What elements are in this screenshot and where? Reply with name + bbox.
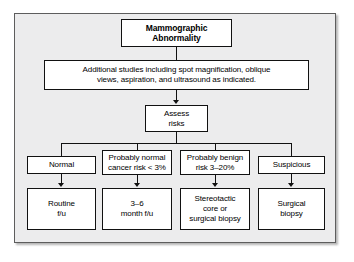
node-routine-fu-line1: Routine	[48, 199, 75, 208]
node-suspicious-line1: Suspicious	[273, 160, 311, 169]
node-suspicious-text: Suspicious	[271, 160, 313, 170]
node-additional-studies: Additional studies including spot magnif…	[44, 60, 309, 90]
node-probably-benign-line1: Probably benign	[187, 153, 243, 162]
node-probably-benign-line2: risk 3–20%	[196, 163, 235, 172]
node-additional-studies-line2: views, aspiration, and ultrasound as ind…	[97, 75, 256, 84]
node-surgical-biopsy: Surgical biopsy	[258, 188, 325, 230]
node-three-six-month-fu-line2: month f/u	[121, 209, 153, 218]
node-mammographic-abnormality: Mammographic Abnormality	[121, 19, 232, 47]
node-routine-fu-text: Routine f/u	[46, 199, 77, 219]
connector-assess-risks-stem	[176, 132, 177, 143]
node-surgical-biopsy-line1: Surgical	[277, 199, 305, 208]
node-probably-normal-text: Probably normal cancer risk < 3%	[106, 153, 168, 173]
node-three-six-month-fu-text: 3–6 month f/u	[119, 199, 155, 219]
node-mammographic-abnormality-text: Mammographic Abnormality	[144, 23, 210, 44]
node-stereotactic-core-or-surgical-biopsy: Stereotactic core or surgical biopsy	[180, 188, 250, 230]
connector-bus-to-suspicious	[291, 143, 292, 157]
node-additional-studies-text: Additional studies including spot magnif…	[81, 65, 273, 85]
arrowhead-to-stereotactic-core	[212, 183, 218, 187]
node-assess-risks-line2: risks	[169, 119, 185, 128]
node-three-six-month-fu: 3–6 month f/u	[102, 188, 172, 230]
diagram-panel: Mammographic Abnormality Additional stud…	[14, 13, 336, 243]
node-probably-benign: Probably benign risk 3–20%	[180, 150, 250, 175]
node-mammographic-abnormality-line2: Abnormality	[152, 33, 201, 43]
connector-root-to-additional-studies	[176, 47, 177, 60]
node-routine-fu-line2: f/u	[57, 209, 66, 218]
node-normal-text: Normal	[47, 160, 76, 170]
node-normal-line1: Normal	[49, 160, 74, 169]
node-probably-benign-text: Probably benign risk 3–20%	[185, 153, 245, 173]
arrowhead-to-assess-risks	[173, 100, 179, 104]
node-surgical-biopsy-line2: biopsy	[280, 209, 303, 218]
flowchart-figure: Mammographic Abnormality Additional stud…	[0, 0, 354, 262]
node-stereotactic-line1: Stereotactic	[194, 194, 235, 203]
node-probably-normal: Probably normal cancer risk < 3%	[102, 150, 172, 175]
node-stereotactic-line3: surgical biopsy	[189, 214, 240, 223]
node-assess-risks-line1: Assess	[164, 109, 189, 118]
arrowhead-to-routine-fu	[58, 183, 64, 187]
node-additional-studies-line1: Additional studies including spot magnif…	[83, 65, 271, 74]
arrowhead-to-three-six-month-fu	[134, 183, 140, 187]
node-assess-risks-text: Assess risks	[162, 109, 191, 129]
node-routine-fu: Routine f/u	[27, 188, 96, 230]
node-stereotactic-line2: core or	[203, 204, 227, 213]
connector-branch-bus	[61, 143, 291, 144]
node-normal: Normal	[27, 156, 96, 174]
node-assess-risks: Assess risks	[145, 105, 208, 132]
node-three-six-month-fu-line1: 3–6	[130, 199, 143, 208]
arrowhead-to-surgical-biopsy	[288, 183, 294, 187]
node-surgical-biopsy-text: Surgical biopsy	[275, 199, 307, 219]
node-probably-normal-line1: Probably normal	[109, 153, 166, 162]
connector-bus-to-normal	[61, 143, 62, 157]
node-mammographic-abnormality-line1: Mammographic	[146, 23, 208, 33]
node-stereotactic-core-or-surgical-biopsy-text: Stereotactic core or surgical biopsy	[187, 194, 242, 224]
node-suspicious: Suspicious	[258, 156, 325, 174]
node-probably-normal-line2: cancer risk < 3%	[108, 163, 166, 172]
